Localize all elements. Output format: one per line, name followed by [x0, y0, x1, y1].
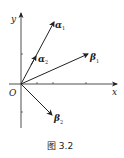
- beta2-subscript: 2: [60, 119, 63, 125]
- vector-diagram: x y O α 1 α 2 β 1 β 2 图 3.2: [0, 0, 124, 158]
- vector-alpha2: α 2: [31, 54, 48, 65]
- alpha1-symbol: α: [55, 20, 62, 30]
- origin-label: O: [9, 88, 17, 98]
- vector-beta1: β 1: [21, 52, 99, 84]
- alpha2-symbol: α: [38, 54, 45, 64]
- vector-beta2: β 2: [21, 84, 63, 125]
- figure-caption: 图 3.2: [47, 141, 73, 151]
- alpha2-subscript: 2: [45, 59, 48, 65]
- y-axis-label: y: [10, 14, 17, 24]
- y-axis: [21, 13, 23, 128]
- alpha1-subscript: 1: [62, 25, 65, 31]
- beta1-symbol: β: [89, 52, 96, 62]
- beta1-subscript: 1: [96, 58, 99, 64]
- x-axis-label: x: [112, 87, 117, 97]
- beta2-symbol: β: [53, 113, 60, 123]
